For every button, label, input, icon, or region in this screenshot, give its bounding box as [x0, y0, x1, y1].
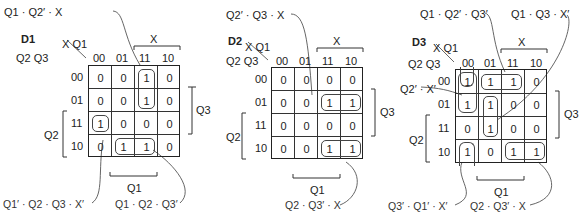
bracket-label-q1-d1: Q1 [127, 182, 142, 194]
group-loop [321, 140, 361, 157]
col-vars-d3: X Q1 [433, 42, 458, 54]
cell: 0 [89, 89, 112, 112]
cell: 0 [502, 93, 525, 116]
row-label: 10 [438, 146, 450, 158]
cell: 0 [272, 91, 295, 114]
bracket-label-q2-d1: Q2 [44, 129, 59, 141]
row-label: 10 [255, 142, 267, 154]
col-label: 11 [322, 55, 333, 67]
row-label: 01 [71, 94, 83, 106]
col-vars-d2: X Q1 [245, 41, 270, 53]
group-loop [459, 142, 475, 166]
cell: 0 [525, 93, 548, 116]
cell: 0 [479, 140, 502, 163]
col-label: 01 [299, 55, 311, 67]
cell: 0 [89, 66, 112, 89]
row-label: 00 [438, 75, 450, 87]
map-title-d1: D1 [21, 33, 35, 45]
row-vars-d2: Q2 Q3 [226, 55, 258, 67]
row-label: 00 [71, 71, 83, 83]
term-d3-nq2nx: Q2′ · X′ [400, 83, 436, 95]
cell: 0 [295, 137, 318, 160]
kmap-grid-d2: 0 0 0 0 0 0 1 1 0 0 0 0 0 0 1 1 [271, 67, 363, 159]
col-label: 00 [93, 52, 105, 64]
cell: 0 [295, 68, 318, 91]
cell: 0 [295, 91, 318, 114]
group-loop [92, 115, 109, 132]
term-d3-q1nq2nq3: Q1 · Q2′ · Q3′ [420, 8, 488, 20]
row-label: 00 [255, 73, 267, 85]
cell: 0 [112, 89, 135, 112]
cell: 0 [318, 68, 341, 91]
bracket-label-x-d2: X [333, 35, 340, 47]
col-label: 10 [530, 57, 542, 69]
cell: 0 [158, 89, 181, 112]
group-loop [481, 74, 522, 90]
row-label: 11 [255, 119, 266, 131]
col-label: 00 [276, 55, 288, 67]
kmap-diagram: Q1 · Q2′ · X D1 X Q1 Q2 Q3 X 00 01 11 10… [0, 0, 586, 218]
cell: 0 [158, 66, 181, 89]
cell: 0 [112, 66, 135, 89]
col-label: 11 [507, 57, 518, 69]
cell: 0 [158, 135, 181, 158]
bracket-label-q1-d3: Q1 [494, 186, 509, 198]
cell: 0 [295, 114, 318, 137]
col-label: 11 [139, 52, 150, 64]
cell: 0 [112, 112, 135, 135]
cell: 0 [456, 117, 479, 140]
col-label: 10 [345, 55, 357, 67]
row-label: 11 [438, 122, 449, 134]
term-d3-q1q3nx: Q1 · Q3 · X′ [511, 8, 569, 20]
term-d1-q1q2nx: Q1 · Q2′ · X [4, 6, 62, 18]
row-label: 11 [71, 117, 82, 129]
bracket-label-q2-d3: Q2 [409, 134, 424, 146]
col-label: 01 [484, 57, 496, 69]
cell: 0 [502, 117, 525, 140]
cell: 0 [525, 117, 548, 140]
kmap-grid-d3: 1 1 1 0 1 1 0 0 0 1 0 0 1 0 1 1 [455, 69, 547, 163]
cell: 0 [272, 137, 295, 160]
cell: 0 [341, 68, 364, 91]
cell: 0 [158, 112, 181, 135]
cell: 0 [272, 114, 295, 137]
bracket-label-x-d1: X [150, 33, 157, 45]
group-loop [115, 138, 155, 155]
term-d2-q2nq3x: Q2 · Q3′ · X [285, 199, 341, 211]
col-label: 10 [162, 52, 174, 64]
term-d1-q1nq2q3nx: Q1′ · Q2 · Q3 · X′ [3, 198, 84, 210]
bracket-label-q1-d2: Q1 [310, 184, 325, 196]
cell: 0 [318, 114, 341, 137]
group-loop [138, 69, 155, 109]
map-title-d3: D3 [412, 36, 426, 48]
term-d1-q1q2nq3: Q1 · Q2 · Q3′ [115, 198, 178, 210]
bracket-label-q3-d2: Q3 [380, 106, 395, 118]
row-vars-d3: Q2 Q3 [408, 58, 440, 70]
bracket-label-q2-d2: Q2 [226, 131, 241, 143]
cell: 0 [272, 68, 295, 91]
col-vars-d1: X Q1 [62, 38, 87, 50]
cell: 0 [341, 114, 364, 137]
term-d3-nq3nq1nx: Q3′ · Q1′ · X′ [388, 200, 448, 212]
row-label: 10 [71, 140, 83, 152]
bracket-label-q3-d3: Q3 [564, 108, 579, 120]
group-loop [460, 67, 474, 87]
kmap-grid-d1: 0 0 1 0 0 0 1 0 1 0 0 0 0 1 1 0 [88, 65, 180, 157]
col-label: 01 [116, 52, 128, 64]
map-title-d2: D2 [228, 35, 242, 47]
term-d2-nq2q3x: Q2′ · Q3 · X [226, 9, 284, 21]
bracket-label-q3-d1: Q3 [196, 104, 211, 116]
cell: 0 [135, 112, 158, 135]
group-loop [483, 96, 498, 137]
row-vars-d1: Q2 Q3 [16, 52, 48, 64]
cell: 0 [525, 70, 548, 93]
group-loop [321, 94, 361, 111]
bracket-label-x-d3: X [518, 36, 525, 48]
row-label: 01 [438, 98, 450, 110]
term-d3-q2nq3x: Q2 · Q3′ · X [470, 200, 526, 212]
row-label: 01 [255, 96, 267, 108]
cell: 0 [89, 135, 112, 158]
group-loop [505, 142, 545, 160]
